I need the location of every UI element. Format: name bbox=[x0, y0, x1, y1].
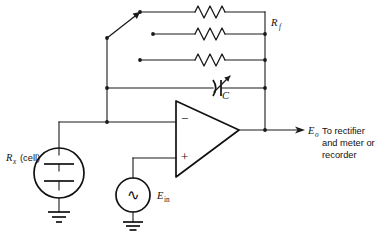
input-source-label-subscript: in bbox=[164, 196, 170, 204]
switch-blade-arrowhead bbox=[133, 12, 140, 19]
circuit-schematic-canvas: R f C − + E o To rectifier and meter or bbox=[0, 0, 385, 233]
resistor-3-zigzag bbox=[195, 54, 225, 66]
switch-blade[interactable] bbox=[107, 13, 139, 38]
ground-source bbox=[123, 222, 143, 230]
measurement-cell bbox=[34, 122, 84, 212]
summing-junction-node bbox=[105, 120, 109, 124]
output-note-line-3: recorder bbox=[322, 150, 357, 160]
ac-input-source: ∿ bbox=[116, 178, 150, 222]
capacitor-label: C bbox=[222, 90, 230, 101]
feedback-branch-capacitor bbox=[105, 76, 267, 96]
resistor-2-zigzag bbox=[195, 28, 225, 40]
ground-cell bbox=[48, 212, 70, 222]
cell-note-label: (cell) bbox=[20, 153, 40, 163]
feedback-resistor-label-subscript: f bbox=[279, 23, 282, 31]
feedback-branch-1 bbox=[138, 6, 265, 18]
output-note-line-1: To rectifier bbox=[322, 126, 365, 136]
output-node bbox=[263, 128, 267, 132]
feedback-resistor-label: R f bbox=[270, 17, 282, 31]
resistor-1-zigzag bbox=[195, 6, 225, 18]
cell-resistance-label-subscript: x bbox=[12, 158, 17, 166]
input-source-label: E in bbox=[156, 190, 170, 204]
input-source-label-text: E bbox=[156, 190, 164, 201]
output-path bbox=[239, 127, 305, 134]
cell-resistance-label-text: R bbox=[5, 152, 13, 163]
opamp-inverting-input-sign: − bbox=[181, 111, 188, 126]
feedback-branch-3 bbox=[138, 54, 267, 66]
switch-contact-3[interactable] bbox=[138, 58, 142, 62]
opamp-noninverting-input-sign: + bbox=[181, 149, 188, 164]
circuit-diagram: R f C − + E o To rectifier and meter or bbox=[0, 0, 385, 233]
ac-waveform-symbol: ∿ bbox=[127, 187, 140, 203]
switch-contact-2[interactable] bbox=[151, 32, 155, 36]
operational-amplifier: − + bbox=[176, 101, 239, 177]
output-label-text: E bbox=[307, 125, 315, 136]
feedback-branch-2 bbox=[151, 28, 267, 40]
feedback-selector-switch[interactable] bbox=[105, 12, 140, 40]
output-note-line-2: and meter or bbox=[322, 138, 375, 148]
output-label-subscript: o bbox=[315, 131, 319, 139]
output-label-group: E o To rectifier and meter or recorder bbox=[307, 125, 375, 160]
feedback-resistor-label-text: R bbox=[270, 17, 278, 28]
